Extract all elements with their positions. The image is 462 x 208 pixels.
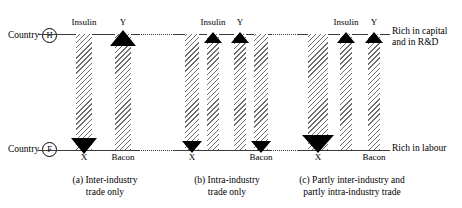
flow-bar-b-1 — [185, 34, 199, 150]
top-axis-annotation-line2: and in R&D — [392, 37, 438, 48]
bottom-axis-dotted-b-c — [270, 150, 298, 151]
flow-arrow-up-c-3 — [365, 32, 383, 43]
goods-label-b-3-top: Y — [210, 17, 270, 27]
top-axis-dotted-a-b — [138, 34, 174, 35]
flow-bar-c-3 — [368, 34, 380, 150]
flow-bar-c-1 — [308, 34, 328, 150]
flow-bar-a-2 — [115, 34, 131, 150]
flow-arrow-down-c-1 — [302, 135, 334, 153]
goods-label-c-1-bottom: X — [288, 152, 348, 162]
flow-arrow-up-b-2 — [204, 32, 222, 43]
panel-caption-b-line1: (b) Intra-industry — [194, 175, 260, 185]
goods-label-b-4-bottom: Bacon — [231, 152, 291, 162]
flow-arrow-up-c-2 — [337, 32, 355, 43]
figure-root: Country H Country F Rich in capital and … — [0, 0, 462, 208]
country-h-prefix: Country — [8, 30, 39, 41]
goods-label-a-2-bottom: Bacon — [93, 152, 153, 162]
panel-caption-a-line1: (a) Inter-industry — [73, 175, 138, 185]
panel-caption-b-line2: trade only — [167, 186, 287, 198]
bottom-axis-dotted-a-b — [138, 150, 174, 151]
goods-label-a-2-top: Y — [93, 17, 153, 27]
flow-bar-b-4 — [254, 34, 268, 150]
top-axis-annotation-line1: Rich in capital — [392, 26, 447, 37]
flow-arrow-up-b-3 — [231, 32, 249, 43]
goods-label-c-3-bottom: Bacon — [344, 152, 404, 162]
flow-bar-b-3 — [234, 34, 246, 150]
panel-caption-a-line2: trade only — [45, 186, 165, 198]
goods-label-c-3-top: Y — [344, 17, 404, 27]
panel-caption-c: (c) Partly inter-industry and partly int… — [272, 174, 432, 198]
country-f-prefix: Country — [8, 144, 39, 155]
panel-caption-c-line2: partly intra-industry trade — [272, 186, 432, 198]
panel-caption-c-line1: (c) Partly inter-industry and — [299, 175, 405, 185]
country-h-label-group: Country H — [8, 28, 57, 43]
flow-bar-a-1 — [76, 34, 92, 150]
panel-caption-a: (a) Inter-industry trade only — [45, 174, 165, 198]
goods-label-b-1-bottom: X — [162, 152, 222, 162]
top-axis-dotted-b-c — [270, 34, 298, 35]
flow-bar-b-2 — [207, 34, 219, 150]
country-h-node: H — [42, 28, 57, 43]
panel-caption-b: (b) Intra-industry trade only — [167, 174, 287, 198]
flow-arrow-up-a-2 — [110, 30, 136, 46]
flow-bar-c-2 — [340, 34, 352, 150]
